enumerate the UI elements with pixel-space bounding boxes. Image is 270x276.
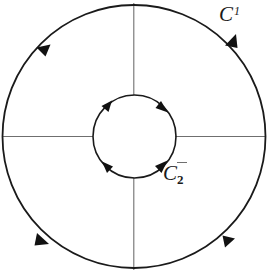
inner-curve-label: C2 xyxy=(163,163,184,184)
outer-curve-label-base: C xyxy=(219,2,233,26)
inner-curve-label-base: C xyxy=(163,161,177,185)
inner-arrowheads-group xyxy=(102,101,169,174)
outer-curve-label: C1 xyxy=(219,4,240,25)
outer-arrow-lower-right-icon xyxy=(223,236,236,248)
outer-curve-label-superscript: 1 xyxy=(234,4,240,18)
figure-canvas: C1 C2 xyxy=(0,0,270,276)
outer-arrow-upper-right-icon xyxy=(225,34,238,48)
inner-curve-label-subscript: 2 xyxy=(177,172,184,187)
annulus-diagram xyxy=(0,0,270,276)
inner-curve-label-overmark xyxy=(177,162,187,163)
outer-arrowheads-group xyxy=(35,34,238,248)
